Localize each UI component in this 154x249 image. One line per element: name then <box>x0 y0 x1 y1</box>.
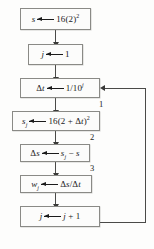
arrowhead-loop-into-delta-t <box>100 85 105 91</box>
node-init-s-expression: s16(2)2 <box>32 15 80 24</box>
node-delta-t-expression: Δt1/10j <box>36 84 84 93</box>
node-init-j[interactable]: j1 <box>28 44 83 65</box>
assignment-arrow-icon <box>29 118 46 124</box>
assignment-arrow-icon <box>44 214 61 220</box>
step-label-3: 3 <box>90 163 94 173</box>
flowchart-canvas: 1 2 3 s16(2)2 j1 Δt1/10j sj16(2 + Δt)2 Δ… <box>0 0 154 249</box>
node-w-sub-j-expression: wjΔs/Δt <box>31 180 81 189</box>
step-label-2: 2 <box>90 132 94 142</box>
node-s-sub-j[interactable]: sj16(2 + Δt)2 <box>12 111 100 131</box>
node-increment-j[interactable]: jj + 1 <box>20 206 100 227</box>
loop-segment-bottom <box>100 222 146 223</box>
assignment-arrow-icon <box>47 85 64 91</box>
node-init-j-expression: j1 <box>41 50 69 59</box>
node-delta-s-expression: Δssj − s <box>30 149 79 158</box>
node-s-sub-j-expression: sj16(2 + Δt)2 <box>22 117 90 126</box>
node-increment-j-expression: jj + 1 <box>40 212 81 221</box>
node-w-sub-j[interactable]: wjΔs/Δt <box>20 175 92 193</box>
node-delta-s[interactable]: Δssj − s <box>20 144 90 162</box>
loop-segment-top <box>105 88 146 89</box>
assignment-arrow-icon <box>46 52 63 58</box>
node-delta-t[interactable]: Δt1/10j <box>20 78 100 98</box>
node-init-s[interactable]: s16(2)2 <box>20 8 91 30</box>
assignment-arrow-icon <box>37 16 54 22</box>
loop-segment-right <box>145 88 146 223</box>
step-label-1: 1 <box>99 99 103 109</box>
assignment-arrow-icon <box>41 181 58 187</box>
assignment-arrow-icon <box>42 150 59 156</box>
